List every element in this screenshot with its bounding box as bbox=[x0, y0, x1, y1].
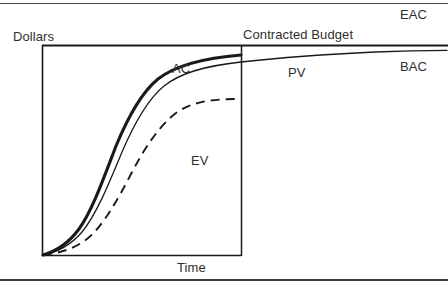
x-axis-label: Time bbox=[177, 261, 206, 275]
contracted-budget-label: Contracted Budget bbox=[243, 28, 353, 42]
series-line-ac bbox=[43, 55, 241, 255]
series-label-pv: PV bbox=[288, 66, 306, 80]
chart-plot-area bbox=[0, 0, 448, 292]
series-line-ev bbox=[43, 99, 240, 255]
series-label-ac: AC bbox=[172, 62, 190, 76]
series-line-pv bbox=[43, 50, 447, 255]
eac-label: EAC bbox=[400, 8, 427, 22]
y-axis-label: Dollars bbox=[13, 30, 54, 44]
earned-value-chart-figure: Dollars Time Contracted Budget EAC BAC A… bbox=[0, 0, 448, 292]
bac-label: BAC bbox=[400, 60, 427, 74]
series-label-ev: EV bbox=[191, 154, 209, 168]
